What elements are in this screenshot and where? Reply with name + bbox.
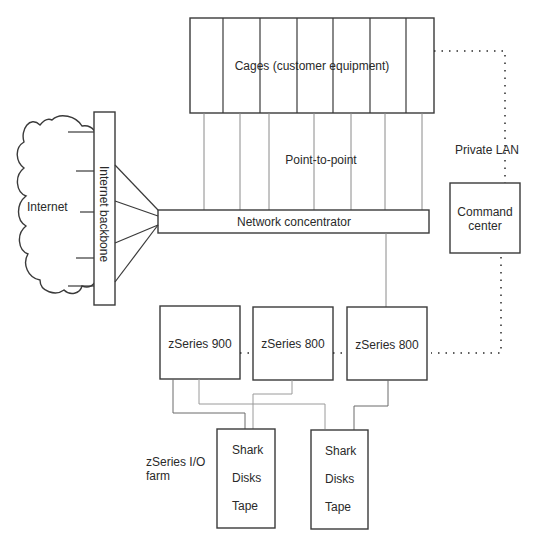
point-to-point-label: Point-to-point	[285, 153, 356, 167]
concentrator-label: Network concentrator	[237, 215, 351, 229]
cages-label: Cages (customer equipment)	[235, 59, 390, 73]
storage-2-item-1: Shark	[325, 444, 356, 458]
server-label-2: zSeries 800	[261, 337, 324, 351]
io-farm-label-1: zSeries I/O	[146, 455, 205, 469]
storage-1-item-2: Disks	[232, 471, 261, 485]
storage-1-item-1: Shark	[232, 443, 263, 457]
backbone-label: Internet backbone	[97, 166, 111, 262]
storage-2-item-2: Disks	[325, 472, 354, 486]
server-label-1: zSeries 900	[168, 337, 231, 351]
command-center-label-1: Command	[457, 205, 512, 219]
server-label-3: zSeries 800	[355, 338, 418, 352]
private-lan-link-bottom	[431, 257, 501, 353]
storage-2-item-3: Tape	[325, 500, 351, 514]
private-lan-link-top	[434, 51, 505, 183]
io-farm-label-2: farm	[146, 469, 170, 483]
internet-label: Internet	[27, 200, 68, 214]
backbone-fan-links	[115, 165, 158, 282]
storage-1-item-3: Tape	[232, 499, 258, 513]
network-diagram	[0, 0, 537, 541]
private-lan-label: Private LAN	[455, 143, 519, 157]
storage-links	[173, 379, 388, 430]
command-center-label-2: center	[468, 219, 501, 233]
